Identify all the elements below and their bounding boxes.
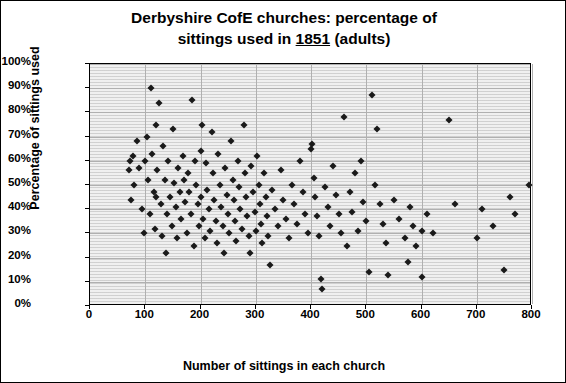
- gridline-vertical: [366, 64, 367, 304]
- x-axis-tick-label: 200: [180, 308, 220, 320]
- x-axis-tick-label: 800: [511, 308, 551, 320]
- y-axis-tick-mark: [85, 281, 89, 282]
- y-axis-tick-label: 20%: [0, 249, 31, 261]
- y-axis-tick-mark: [85, 136, 89, 137]
- x-axis-tick-mark: [89, 305, 90, 309]
- gridline-horizontal: [90, 185, 530, 186]
- chart-title-line1: Derbyshire CofE churches: percentage of: [131, 9, 437, 26]
- gridline-vertical: [145, 64, 146, 304]
- gridline-horizontal: [90, 88, 530, 89]
- y-axis-tick-label: 60%: [0, 152, 31, 164]
- gridline-vertical: [311, 64, 312, 304]
- gridline-horizontal: [90, 209, 530, 210]
- plot-area: [89, 63, 531, 305]
- y-axis-tick-label: 80%: [0, 103, 31, 115]
- gridline-horizontal: [90, 137, 530, 138]
- gridline-vertical: [422, 64, 423, 304]
- y-axis-tick-mark: [85, 208, 89, 209]
- chart-title: Derbyshire CofE churches: percentage of …: [1, 7, 566, 49]
- y-axis-tick-mark: [85, 184, 89, 185]
- y-axis-tick-mark: [85, 63, 89, 64]
- gridline-horizontal: [90, 64, 530, 65]
- chart-title-line2-pre: sittings used in: [178, 30, 296, 47]
- x-axis-tick-mark: [310, 305, 311, 309]
- y-axis-tick-label: 100%: [0, 55, 31, 67]
- x-axis-tick-mark: [144, 305, 145, 309]
- x-axis-tick-label: 400: [290, 308, 330, 320]
- y-axis-tick-label: 90%: [0, 79, 31, 91]
- gridline-horizontal: [90, 112, 530, 113]
- x-axis-tick-label: 500: [345, 308, 385, 320]
- x-axis-label: Number of sittings in each church: [1, 359, 566, 373]
- plot-background-texture: [90, 64, 530, 304]
- x-axis-tick-mark: [531, 305, 532, 309]
- y-axis-tick-mark: [85, 111, 89, 112]
- x-axis-tick-label: 0: [69, 308, 109, 320]
- y-axis-tick-mark: [85, 87, 89, 88]
- x-axis-tick-mark: [476, 305, 477, 309]
- x-axis-tick-mark: [200, 305, 201, 309]
- x-axis-tick-label: 600: [401, 308, 441, 320]
- y-axis-tick-label: 30%: [0, 224, 31, 236]
- y-axis-tick-mark: [85, 160, 89, 161]
- gridline-horizontal: [90, 258, 530, 259]
- x-axis-tick-mark: [421, 305, 422, 309]
- y-axis-tick-label: 40%: [0, 200, 31, 212]
- x-axis-tick-mark: [365, 305, 366, 309]
- chart-title-year: 1851: [296, 30, 330, 47]
- chart-figure: Derbyshire CofE churches: percentage of …: [0, 0, 566, 383]
- y-axis-tick-label: 0%: [0, 297, 31, 309]
- y-axis-tick-label: 50%: [0, 176, 31, 188]
- x-axis-tick-label: 300: [235, 308, 275, 320]
- x-axis-tick-label: 100: [124, 308, 164, 320]
- y-axis-tick-mark: [85, 257, 89, 258]
- chart-title-line2-post: (adults): [330, 30, 390, 47]
- gridline-horizontal: [90, 282, 530, 283]
- x-axis-tick-mark: [255, 305, 256, 309]
- y-axis-tick-label: 10%: [0, 273, 31, 285]
- y-axis-tick-label: 70%: [0, 128, 31, 140]
- gridline-vertical: [201, 64, 202, 304]
- y-axis-tick-mark: [85, 232, 89, 233]
- x-axis-tick-label: 700: [456, 308, 496, 320]
- gridline-vertical: [477, 64, 478, 304]
- gridline-horizontal: [90, 161, 530, 162]
